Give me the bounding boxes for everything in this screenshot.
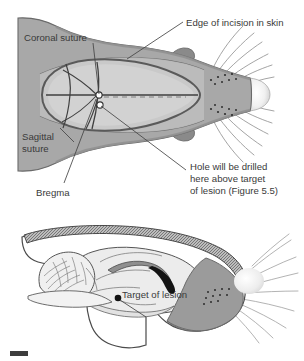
label-sagittal-suture-line2: suture xyxy=(22,143,49,154)
label-target-of-lesion: Target of lesion xyxy=(122,289,187,300)
nose-tip-sagittal xyxy=(234,268,264,294)
sagittal-view-panel: Target of lesion xyxy=(22,225,298,347)
label-hole-drilled-line3: of lesion (Figure 5.5) xyxy=(190,185,278,196)
label-hole-drilled-line1: Hole will be drilled xyxy=(190,161,267,172)
label-sagittal-suture-line1: Sagittal xyxy=(22,131,54,142)
diagram-svg: Coronal suture Edge of incision in skin … xyxy=(0,0,304,361)
nose-tip-dorsal xyxy=(249,78,270,111)
label-edge-of-incision: Edge of incision in skin xyxy=(186,17,284,28)
bottom-corner-marker xyxy=(10,351,28,356)
dorsal-view-panel: Coronal suture Edge of incision in skin … xyxy=(18,17,284,198)
figure-container: Coronal suture Edge of incision in skin … xyxy=(0,0,304,361)
label-bregma: Bregma xyxy=(36,187,70,198)
label-coronal-suture: Coronal suture xyxy=(24,32,87,43)
label-hole-drilled-line2: here above target xyxy=(190,173,266,184)
